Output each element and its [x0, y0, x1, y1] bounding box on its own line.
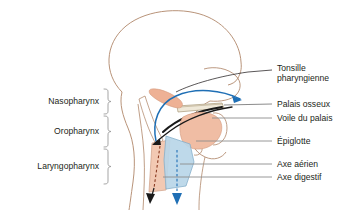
- right-label-tonsille-pharyngienne-line2: pharyngienne: [277, 73, 329, 83]
- right-label-axe-aerien: Axe aérien: [277, 159, 318, 169]
- bracket-laryngopharynx: [104, 149, 111, 184]
- right-label-axe-digestif: Axe digestif: [277, 172, 322, 182]
- leader-tonsille-pharyngienne: [176, 70, 272, 92]
- right-label-epiglotte: Épiglotte: [277, 136, 311, 146]
- anatomy-diagram: Nasopharynx Oropharynx Laryngopharynx To…: [0, 0, 359, 210]
- left-label-nasopharynx: Nasopharynx: [48, 96, 99, 106]
- left-label-group: Nasopharynx Oropharynx Laryngopharynx: [37, 96, 99, 171]
- larynx-trachea: [164, 136, 194, 189]
- right-label-palais-osseux: Palais osseux: [277, 99, 331, 109]
- right-label-group: Tonsille pharyngienne Palais osseux Voil…: [277, 63, 332, 182]
- bracket-nasopharynx: [104, 89, 111, 114]
- right-label-voile-du-palais: Voile du palais: [277, 113, 332, 123]
- left-label-oropharynx: Oropharynx: [54, 126, 100, 136]
- bracket-oropharynx: [104, 116, 111, 147]
- region-brackets: [104, 89, 111, 184]
- right-label-tonsille-pharyngienne-line1: Tonsille: [277, 63, 306, 73]
- left-label-laryngopharynx: Laryngopharynx: [37, 161, 99, 171]
- leader-palais-osseux: [224, 104, 272, 105]
- pharyngeal-tonsil: [149, 89, 182, 108]
